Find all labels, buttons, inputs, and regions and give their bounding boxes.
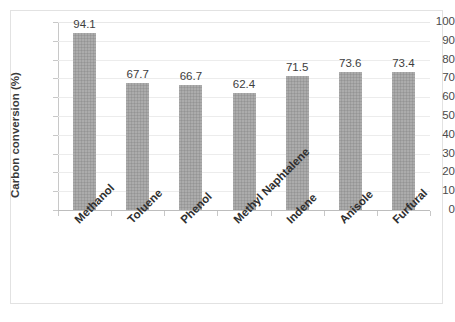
bar bbox=[392, 72, 415, 210]
gridline bbox=[58, 22, 430, 23]
x-tick-mark bbox=[111, 211, 112, 216]
bar-value-label: 71.5 bbox=[277, 62, 317, 74]
bar-value-label: 62.4 bbox=[224, 79, 264, 91]
bar-chart: Carbon conversion (%) 100908070605040302… bbox=[0, 0, 455, 322]
x-tick-mark bbox=[271, 211, 272, 216]
bar-value-label: 73.6 bbox=[330, 58, 370, 70]
x-tick-mark bbox=[430, 211, 431, 216]
x-tick-mark bbox=[217, 211, 218, 216]
bar bbox=[126, 83, 149, 210]
y-axis-title-text: Carbon conversion (%) bbox=[9, 72, 21, 198]
bar bbox=[286, 76, 309, 210]
x-tick-mark bbox=[377, 211, 378, 216]
plot-area bbox=[58, 22, 430, 210]
bar-value-label: 66.7 bbox=[171, 71, 211, 83]
gridline bbox=[58, 41, 430, 42]
bar-value-label: 73.4 bbox=[383, 58, 423, 70]
bar-value-label: 94.1 bbox=[65, 19, 105, 31]
bar bbox=[339, 72, 362, 210]
gridline bbox=[58, 60, 430, 61]
y-axis-title: Carbon conversion (%) bbox=[8, 38, 26, 198]
bar bbox=[179, 85, 202, 210]
bar bbox=[233, 93, 256, 210]
x-tick-mark bbox=[164, 211, 165, 216]
x-tick-mark bbox=[58, 211, 59, 216]
x-tick-mark bbox=[324, 211, 325, 216]
bar-value-label: 67.7 bbox=[118, 69, 158, 81]
bar bbox=[73, 33, 96, 210]
